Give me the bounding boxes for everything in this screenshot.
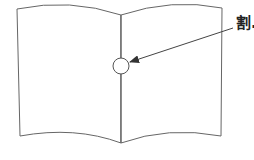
left-page: [17, 5, 121, 143]
open-book-diagram: [0, 0, 254, 160]
right-page: [121, 4, 222, 143]
callout-label: 割.: [236, 16, 254, 31]
marker-circle: [113, 58, 129, 74]
